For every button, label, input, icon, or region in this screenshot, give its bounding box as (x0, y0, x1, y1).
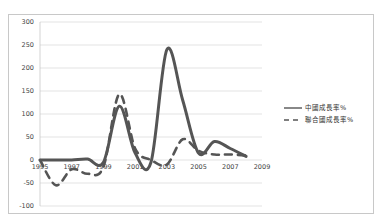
y-tick-label: 250 (22, 41, 34, 49)
series-line-un (40, 94, 246, 185)
x-tick-label: 2009 (254, 163, 271, 171)
y-tick-label: 150 (22, 87, 34, 95)
line-chart: 300250200150100500-50-100 19951997199920… (0, 0, 382, 224)
x-tick-label: 2005 (190, 163, 207, 171)
y-tick-label: -50 (23, 179, 34, 187)
legend-label: 聯合國成長率% (305, 115, 353, 124)
x-tick-label: 1995 (32, 163, 49, 171)
y-tick-label: 200 (22, 64, 34, 72)
legend: 中國成長率%聯合國成長率% (284, 103, 353, 124)
x-tick-label: 2007 (222, 163, 239, 171)
y-tick-label: -100 (19, 202, 34, 210)
series-line-china (40, 48, 246, 170)
gridlines (40, 22, 262, 206)
legend-label: 中國成長率% (305, 103, 346, 112)
y-tick-label: 300 (22, 18, 34, 26)
y-axis-ticks: 300250200150100500-50-100 (19, 18, 34, 210)
y-tick-label: 50 (26, 133, 34, 141)
y-tick-label: 100 (22, 110, 34, 118)
